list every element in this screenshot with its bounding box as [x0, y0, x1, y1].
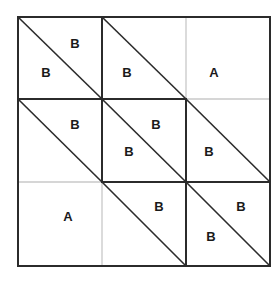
cell-label-b: B [70, 36, 79, 51]
cell-label-b: B [206, 229, 215, 244]
tile-grid-diagram: BBBABBBBABBB [0, 0, 278, 282]
cell-label-b: B [236, 199, 245, 214]
cell-label-b: B [122, 65, 131, 80]
background [0, 0, 278, 282]
cell-label-b: B [70, 117, 79, 132]
cell-label-b: B [154, 199, 163, 214]
cell-label-b: B [124, 144, 133, 159]
cell-label-b: B [151, 117, 160, 132]
cell-label-a: A [209, 65, 219, 80]
cell-label-b: B [41, 65, 50, 80]
cell-label-a: A [63, 209, 73, 224]
cell-label-b: B [204, 144, 213, 159]
